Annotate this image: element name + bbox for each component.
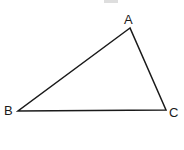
triangle-figure xyxy=(0,0,184,150)
vertex-label-b: B xyxy=(4,104,13,117)
triangle-abc-outline xyxy=(18,28,166,111)
figure-canvas: A B C xyxy=(0,0,184,150)
vertex-label-a: A xyxy=(124,13,133,26)
cropped-text-smudge xyxy=(104,0,118,3)
vertex-label-c: C xyxy=(169,106,178,119)
